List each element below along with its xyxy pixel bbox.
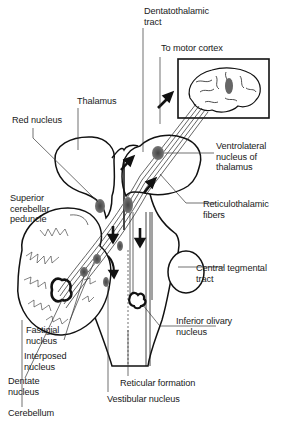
label-interposed-nucleus: Interposed nucleus — [24, 351, 66, 372]
reticular-nucleus — [123, 197, 133, 213]
label-cerebellum: Cerebellum — [8, 408, 54, 419]
label-inferior-olivary-nucleus: Inferior olivary nucleus — [176, 316, 232, 337]
label-red-nucleus: Red nucleus — [12, 115, 62, 126]
label-central-tegmental-tract: Central tegmental tract — [196, 263, 267, 284]
label-thalamus: Thalamus — [77, 96, 117, 107]
reticular-formation-dot — [117, 241, 123, 251]
label-reticulothalamic-fibers: Reticulothalamic fibers — [203, 199, 269, 220]
red-nucleus — [95, 199, 105, 213]
label-to-motor-cortex: To motor cortex — [161, 43, 223, 54]
motor-cortex-region — [225, 78, 233, 94]
inferior-olivary-nucleus-shape — [129, 293, 145, 308]
label-vestibular-nucleus: Vestibular nucleus — [107, 394, 180, 405]
label-ventrolateral-nucleus: Ventrolateral nucleus of thalamus — [216, 141, 266, 173]
label-reticular-formation: Reticular formation — [120, 378, 195, 389]
ventrolateral-nucleus — [152, 146, 164, 160]
label-fastigial-nucleus: Fastigial nucleus — [26, 325, 59, 346]
interposed-nucleus — [80, 267, 88, 277]
pathway-arrows — [108, 93, 172, 277]
label-superior-cerebellar-peduncle: Superior cerebellar peduncle — [10, 193, 49, 225]
cerebellum-shape — [18, 208, 111, 335]
fastigial-nucleus — [93, 254, 101, 264]
vestibular-nucleus-dot — [103, 277, 109, 287]
label-dentate-nucleus: Dentate nucleus — [8, 376, 39, 397]
label-dentatothalamic-tract: Dentatothalamic tract — [144, 6, 209, 27]
